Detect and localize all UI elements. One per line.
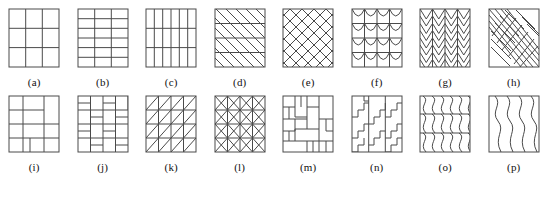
pattern-cell-d: (d)	[206, 6, 275, 89]
pattern-tile-h	[486, 6, 542, 70]
pattern-label-h: (h)	[507, 75, 520, 89]
pattern-cell-b: (b)	[69, 6, 138, 89]
pattern-cell-l: (l)	[206, 93, 275, 174]
pattern-label-o: (o)	[439, 160, 452, 174]
pattern-label-c: (c)	[165, 75, 178, 89]
pattern-tile-m	[280, 93, 336, 155]
texture-pattern-figure: (a) (b)	[0, 0, 551, 204]
pattern-cell-e: (e)	[274, 6, 343, 89]
pattern-tile-e	[280, 6, 336, 70]
pattern-cell-m: (m)	[274, 93, 343, 174]
pattern-label-j: (j)	[97, 160, 108, 174]
pattern-cell-c: (c)	[137, 6, 206, 89]
pattern-tile-k	[143, 93, 199, 155]
pattern-label-f: (f)	[371, 75, 383, 89]
pattern-label-l: (l)	[234, 160, 245, 174]
pattern-tile-n	[349, 93, 405, 155]
pattern-cell-a: (a)	[0, 6, 69, 89]
pattern-cell-f: (f)	[343, 6, 412, 89]
pattern-row-top: (a) (b)	[0, 0, 551, 89]
pattern-cell-j: (j)	[69, 93, 138, 174]
pattern-cell-o: (o)	[411, 93, 480, 174]
pattern-label-n: (n)	[370, 160, 383, 174]
pattern-label-d: (d)	[233, 75, 246, 89]
pattern-label-m: (m)	[300, 160, 316, 174]
pattern-cell-i: (i)	[0, 93, 69, 174]
pattern-tile-a	[6, 6, 62, 70]
pattern-tile-g	[417, 6, 473, 70]
pattern-tile-i	[6, 93, 62, 155]
pattern-label-i: (i)	[29, 160, 40, 174]
pattern-tile-p	[486, 93, 542, 155]
pattern-label-k: (k)	[165, 160, 178, 174]
pattern-cell-g: (g)	[411, 6, 480, 89]
pattern-label-g: (g)	[439, 75, 452, 89]
pattern-tile-f	[349, 6, 405, 70]
pattern-cell-h: (h)	[480, 6, 549, 89]
pattern-label-p: (p)	[507, 160, 520, 174]
pattern-row-bottom: (i)	[0, 89, 551, 174]
pattern-label-b: (b)	[96, 75, 109, 89]
pattern-cell-k: (k)	[137, 93, 206, 174]
pattern-tile-j	[75, 93, 131, 155]
pattern-cell-p: (p)	[480, 93, 549, 174]
pattern-tile-l	[212, 93, 268, 155]
pattern-tile-o	[417, 93, 473, 155]
pattern-tile-c	[143, 6, 199, 70]
pattern-tile-b	[75, 6, 131, 70]
pattern-tile-d	[212, 6, 268, 70]
pattern-cell-n: (n)	[343, 93, 412, 174]
pattern-label-a: (a)	[28, 75, 41, 89]
pattern-label-e: (e)	[302, 75, 315, 89]
